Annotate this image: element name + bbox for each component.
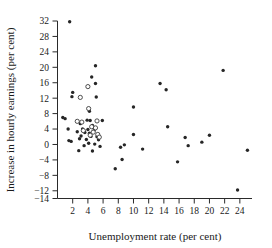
y-axis: 322824201612840−4−8−12−14	[34, 16, 57, 204]
data-point-filled	[236, 188, 239, 191]
data-point-open	[75, 119, 79, 123]
data-point-filled	[85, 118, 88, 121]
y-tick-label: 8	[44, 109, 49, 119]
data-point-filled	[120, 158, 123, 161]
y-tick-label: −8	[39, 171, 49, 181]
y-tick-label: −4	[39, 155, 49, 165]
x-tick-label: 16	[174, 206, 184, 216]
data-point-filled	[186, 144, 189, 147]
data-point-filled	[95, 95, 98, 98]
data-point-filled	[132, 133, 135, 136]
data-points-group	[61, 20, 249, 192]
data-point-filled	[88, 119, 91, 122]
x-tick-label: 4	[86, 206, 91, 216]
data-point-filled	[119, 145, 122, 148]
data-point-filled	[86, 128, 89, 131]
data-point-filled	[91, 149, 94, 152]
data-point-filled	[98, 145, 101, 148]
data-point-filled	[71, 91, 74, 94]
data-point-filled	[69, 140, 72, 143]
data-point-open	[97, 135, 101, 139]
x-tick-label: 24	[235, 206, 245, 216]
y-tick-label: 32	[40, 16, 50, 26]
data-point-filled	[208, 134, 211, 137]
x-tick-label: 8	[116, 206, 121, 216]
scatter-chart-figure: 322824201612840−4−8−12−14 24681012141618…	[0, 0, 272, 248]
data-point-filled	[166, 125, 169, 128]
x-tick-group: 24681012141618202224	[70, 199, 245, 217]
data-point-filled	[158, 82, 161, 85]
data-point-filled	[141, 147, 144, 150]
data-point-filled	[82, 144, 85, 147]
x-tick-label: 18	[190, 206, 200, 216]
x-axis: 24681012141618202224	[58, 199, 253, 217]
data-point-filled	[123, 143, 126, 146]
y-tick-group: 322824201612840−4−8−12−14	[34, 16, 57, 204]
data-point-filled	[90, 75, 93, 78]
y-tick-label: 0	[44, 140, 49, 150]
x-tick-label: 10	[129, 206, 139, 216]
data-point-filled	[85, 138, 88, 141]
data-point-filled	[70, 95, 73, 98]
y-tick-label: 12	[40, 94, 50, 104]
data-point-open	[88, 133, 92, 137]
data-point-filled	[94, 64, 97, 67]
data-point-open	[78, 95, 82, 99]
data-point-filled	[63, 117, 66, 120]
data-point-open	[80, 120, 84, 124]
data-point-filled	[77, 149, 80, 152]
data-point-filled	[94, 82, 97, 85]
data-point-filled	[76, 130, 79, 133]
x-tick-label: 14	[159, 206, 169, 216]
x-tick-label: 12	[144, 206, 154, 216]
x-axis-label: Unemployment rate (per cent)	[89, 230, 222, 243]
data-point-filled	[176, 160, 179, 163]
y-tick-label: 16	[40, 78, 50, 88]
data-point-filled	[164, 88, 167, 91]
data-point-filled	[87, 142, 90, 145]
data-point-open	[81, 128, 85, 132]
data-point-filled	[132, 105, 135, 108]
data-point-filled	[68, 20, 71, 23]
x-tick-label: 6	[101, 206, 106, 216]
y-axis-label: Increase in hourly earnings (per cent)	[4, 27, 17, 192]
data-point-open	[86, 84, 90, 88]
data-point-filled	[200, 140, 203, 143]
data-point-filled	[246, 149, 249, 152]
y-tick-label: 20	[40, 63, 50, 73]
x-tick-label: 20	[205, 206, 215, 216]
y-tick-label: 4	[44, 124, 49, 134]
data-point-filled	[101, 119, 104, 122]
y-tick-label: −14	[34, 194, 49, 204]
data-point-filled	[114, 167, 117, 170]
data-point-filled	[66, 127, 69, 130]
data-point-open	[87, 106, 91, 110]
data-point-filled	[78, 137, 81, 140]
data-point-filled	[183, 136, 186, 139]
data-point-filled	[93, 142, 96, 145]
y-tick-label: 28	[40, 32, 50, 42]
data-point-open	[95, 119, 99, 123]
x-tick-label: 22	[220, 206, 230, 216]
data-point-open	[93, 126, 97, 130]
x-tick-label: 2	[70, 206, 75, 216]
y-tick-label: 24	[40, 47, 50, 57]
chart-canvas: 322824201612840−4−8−12−14 24681012141618…	[0, 0, 272, 248]
data-point-filled	[221, 69, 224, 72]
